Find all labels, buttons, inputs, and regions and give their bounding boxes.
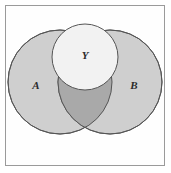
venn-diagram-canvas: A B Y bbox=[0, 0, 171, 173]
set-label-a: A bbox=[31, 79, 39, 91]
venn-diagram-figure: A B Y bbox=[0, 0, 171, 173]
set-label-b: B bbox=[129, 79, 137, 91]
